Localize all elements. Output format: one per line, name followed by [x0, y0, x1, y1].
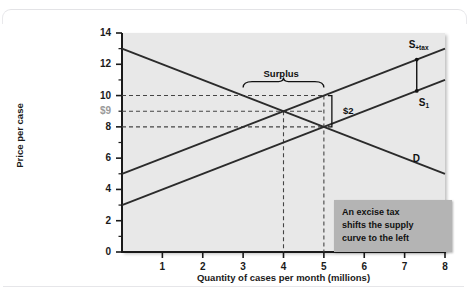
x-tick-label: 4 [277, 262, 291, 272]
figure-root: 02468101214$912345678 Price per case Qua… [0, 0, 467, 298]
curve-label-subscript: 1 [425, 102, 429, 109]
tax-amount-label: $2 [343, 105, 354, 116]
x-tick-label: 6 [357, 262, 371, 272]
x-tick-label: 1 [155, 262, 169, 272]
curve-label-s-tax: S+tax [409, 40, 429, 50]
figure-frame-bottom-rule [3, 286, 464, 287]
curve-label-d: D [413, 154, 420, 164]
callout-line-1: An excise tax [342, 206, 445, 219]
excise-tax-callout: An excise tax shifts the supply curve to… [334, 200, 452, 252]
cutoff-top-text [0, 0, 467, 3]
x-tick-label: 8 [438, 262, 452, 272]
special-price-label: $9 [89, 106, 111, 116]
y-tick-label: 6 [89, 153, 111, 163]
y-tick-label: 2 [89, 216, 111, 226]
y-tick-label: 0 [89, 247, 111, 257]
guide-lines-group [122, 96, 326, 252]
callout-line-2: shifts the supply [342, 219, 445, 232]
y-tick-label: 8 [89, 122, 111, 132]
y-tick-label: 14 [89, 28, 111, 38]
curve-label-s1: S1 [419, 98, 429, 108]
x-axis-title: Quantity of cases per month (millions) [122, 272, 445, 283]
x-tick-label: 7 [398, 262, 412, 272]
surplus-annotation-label: Surplus [264, 68, 299, 79]
y-tick-label: 4 [89, 184, 111, 194]
y-axis-title: Price per case [14, 96, 25, 176]
y-tick-label: 12 [89, 59, 111, 69]
x-tick-label: 5 [317, 262, 331, 272]
callout-line-3: curve to the left [342, 232, 445, 245]
x-tick-label: 2 [196, 262, 210, 272]
x-tick-label: 3 [236, 262, 250, 272]
curve-label-subscript: +tax [415, 44, 428, 51]
y-tick-label: 10 [89, 91, 111, 101]
chart-area: 02468101214$912345678 Price per case Qua… [0, 22, 467, 286]
